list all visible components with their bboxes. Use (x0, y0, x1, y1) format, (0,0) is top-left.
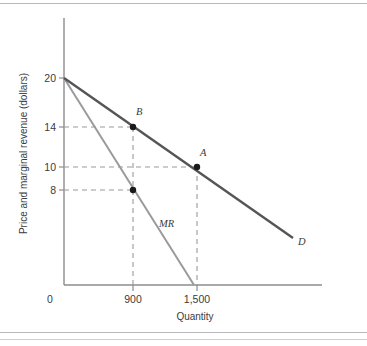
data-point-b (130, 124, 136, 130)
x-axis-title: Quantity (140, 311, 250, 322)
y-tick-label-20: 20 (30, 72, 56, 84)
data-point-mr-900 (130, 187, 136, 193)
x-tick-label-1500: 1,500 (174, 293, 220, 305)
curve-label-mr: MR (159, 218, 174, 229)
y-tick-label-10: 10 (30, 161, 56, 173)
x-tick-label-900: 900 (110, 293, 156, 305)
y-tick-label-8: 8 (30, 184, 56, 196)
demand-line (64, 78, 293, 238)
y-axis-title: Price and marginal revenue (dollars) (18, 69, 29, 239)
x-tick-label-0: 0 (27, 293, 73, 305)
point-label-a: A (200, 147, 206, 158)
marginal-revenue-line (64, 78, 194, 285)
point-label-b: B (136, 106, 142, 117)
economics-figure: 20 14 10 8 0 900 1,500 B A D MR Price an… (0, 0, 367, 346)
y-tick-label-14: 14 (30, 121, 56, 133)
curve-label-d: D (298, 236, 306, 247)
data-point-a (194, 164, 200, 170)
